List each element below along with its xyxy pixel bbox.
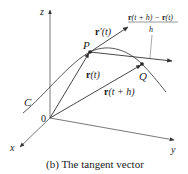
secant-denominator: h (149, 25, 153, 34)
r-t-label: r(t) (86, 69, 101, 81)
r-t-h-label: r(t + h) (104, 86, 135, 98)
tangent-vector-diagram: z x y 0 C P Q r(t) r(t + h) r′(t) r(t + … (0, 0, 188, 174)
figure-caption: (b) The tangent vector (46, 158, 144, 171)
z-axis-label: z (39, 6, 44, 17)
origin-label: 0 (41, 113, 46, 124)
curve-label: C (24, 96, 32, 108)
y-axis (50, 118, 174, 140)
vector-r-t (50, 53, 89, 118)
point-q-label: Q (139, 70, 147, 82)
point-q (140, 62, 144, 66)
h-pointer (150, 35, 152, 58)
secant-numerator: r(t + h) − r(t) (128, 13, 173, 22)
x-axis-label: x (9, 142, 15, 153)
r-prime-label: r′(t) (95, 26, 112, 38)
secant-vector (90, 52, 172, 61)
y-axis-label: y (170, 144, 176, 155)
point-p-label: P (82, 39, 90, 51)
